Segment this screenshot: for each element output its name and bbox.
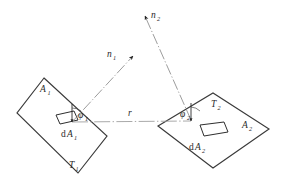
label-r-base: r — [128, 108, 132, 118]
distance-r-line — [72, 121, 191, 122]
label-n1: n 1 — [107, 49, 116, 61]
label-A2-sub: 2 — [249, 125, 252, 132]
label-dA1-prefix: d — [61, 129, 66, 139]
label-phi2: φ 2 — [180, 109, 190, 121]
radiation-diagram-figure: A 1 T 1 T 2 A 2 d A 1 d A 2 — [0, 0, 283, 185]
label-n1-base: n — [107, 49, 112, 59]
diagram-canvas: A 1 T 1 T 2 A 2 d A 1 d A 2 — [0, 0, 283, 185]
label-dA2: d A 2 — [189, 142, 205, 154]
label-dA2-prefix: d — [189, 142, 194, 152]
label-A2-base: A — [241, 120, 248, 130]
label-dA2-base: A — [194, 142, 201, 152]
label-A1-sub: 1 — [48, 89, 51, 96]
normal-n2-ray — [145, 16, 191, 120]
label-phi1-sub: 1 — [85, 115, 88, 122]
label-n1-sub: 1 — [113, 54, 116, 61]
label-dA2-sub: 2 — [202, 147, 205, 154]
label-dA1-sub: 1 — [74, 134, 77, 141]
label-T1-base: T — [69, 160, 75, 170]
label-A1: A 1 — [39, 84, 51, 96]
label-n2-sub: 2 — [157, 15, 160, 22]
element-dA2-outline — [200, 122, 228, 136]
label-phi2-base: φ — [180, 109, 185, 119]
label-dA1-base: A — [66, 129, 73, 139]
label-phi2-sub: 2 — [187, 114, 190, 121]
label-T2-base: T — [211, 99, 217, 109]
label-phi1: φ 1 — [78, 110, 88, 122]
surface-1-outline — [17, 78, 107, 173]
label-T2: T 2 — [211, 99, 221, 111]
label-phi1-base: φ — [78, 110, 83, 120]
label-n2-base: n — [151, 10, 156, 20]
label-n2: n 2 — [151, 10, 160, 22]
label-r: r — [128, 108, 132, 118]
label-T1: T 1 — [69, 160, 79, 172]
label-T2-sub: 2 — [218, 104, 221, 111]
angle-phi2-arc — [191, 107, 200, 111]
label-dA1: d A 1 — [61, 129, 77, 141]
label-A1-base: A — [39, 84, 46, 94]
label-T1-sub: 1 — [76, 165, 79, 172]
label-A2: A 2 — [241, 120, 252, 132]
